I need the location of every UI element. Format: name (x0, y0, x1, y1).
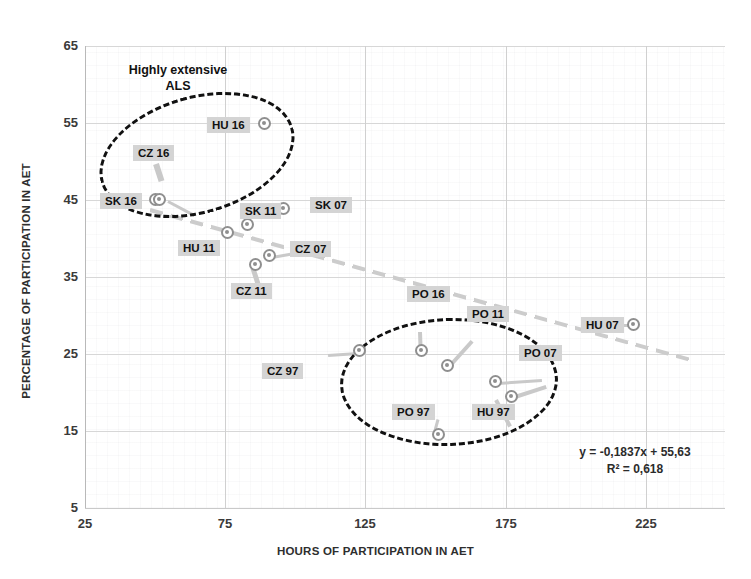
data-point-po11[interactable] (441, 359, 454, 372)
data-point-hu16[interactable] (258, 117, 271, 130)
data-label-hu97: HU 97 (472, 404, 515, 420)
data-point-hu07[interactable] (627, 318, 640, 331)
x-tick-label: 175 (476, 516, 536, 531)
data-label-cz07: CZ 07 (290, 241, 331, 257)
x-tick-label: 25 (55, 516, 115, 531)
annotation-line-1: Highly extensive (98, 62, 258, 78)
y-tick-label: 25 (44, 346, 78, 361)
y-tick-label: 15 (44, 423, 78, 438)
data-point-cz07[interactable] (263, 249, 276, 262)
gridline-y-65 (85, 46, 725, 47)
data-label-hu16: HU 16 (207, 117, 250, 133)
data-point-hu97[interactable] (505, 390, 518, 403)
data-point-po16[interactable] (415, 344, 428, 357)
data-label-sk16: SK 16 (100, 193, 142, 209)
annotation-line-2: ALS (98, 78, 258, 94)
data-label-hu07: HU 07 (581, 317, 624, 333)
data-label-po16: PO 16 (407, 286, 450, 302)
y-tick-label: 35 (44, 269, 78, 284)
data-label-sk07: SK 07 (310, 197, 352, 213)
data-label-sk11: SK 11 (240, 203, 281, 219)
data-label-cz16: CZ 16 (133, 145, 174, 161)
data-label-po97: PO 97 (392, 404, 435, 420)
x-axis-line (85, 508, 725, 509)
data-point-sk16[interactable] (153, 193, 166, 206)
y-tick-label: 55 (44, 115, 78, 130)
gridline-x-175 (506, 46, 507, 508)
y-tick-label: 5 (44, 500, 78, 515)
data-point-po97[interactable] (432, 428, 445, 441)
x-axis-title: HOURS OF PARTICIPATION IN AET (0, 545, 751, 557)
x-tick-label: 75 (195, 516, 255, 531)
data-label-cz97: CZ 97 (262, 363, 303, 379)
data-label-po11: PO 11 (467, 306, 509, 322)
data-point-sk11[interactable] (241, 218, 254, 231)
regression-equation-line: y = -0,1837x + 55,63 (540, 444, 730, 461)
gridline-x-125 (365, 46, 366, 508)
data-point-cz11[interactable] (249, 258, 262, 271)
data-point-hu11[interactable] (221, 226, 234, 239)
y-axis-title: PERCENTAGE OF PARTICIPATION IN AET (20, 116, 32, 446)
scatter-chart: 65 55 45 35 25 15 5 25 75 125 175 225 HO… (0, 0, 751, 579)
data-point-cz97[interactable] (353, 344, 366, 357)
y-tick-label: 65 (44, 38, 78, 53)
regression-equation: y = -0,1837x + 55,63 R² = 0,618 (540, 444, 730, 478)
y-tick-label: 45 (44, 192, 78, 207)
data-point-po07[interactable] (489, 375, 502, 388)
gridline-x-225 (646, 46, 647, 508)
annotation-highly-extensive-als: Highly extensive ALS (98, 62, 258, 94)
regression-r2-line: R² = 0,618 (540, 461, 730, 478)
data-label-po07: PO 07 (519, 345, 562, 361)
data-label-cz11: CZ 11 (231, 283, 272, 299)
y-axis-line (85, 46, 86, 509)
x-tick-label: 225 (616, 516, 676, 531)
x-tick-label: 125 (335, 516, 395, 531)
data-label-hu11: HU 11 (178, 240, 220, 256)
cluster-ellipse-lower-right (338, 314, 560, 450)
